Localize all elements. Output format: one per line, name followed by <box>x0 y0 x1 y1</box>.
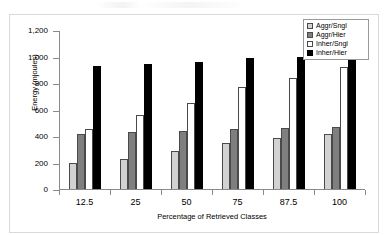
y-tick-label: 400 <box>4 133 48 141</box>
legend-swatch-icon <box>307 23 313 29</box>
legend-item: Inher/Sngl <box>307 39 366 48</box>
x-tick-label: 25 <box>110 197 161 207</box>
bar-inher-hier-12.5 <box>93 66 101 189</box>
chart-canvas: Energy (mjoules) 02004006008001,0001,200… <box>0 0 384 235</box>
bar-group <box>162 31 213 189</box>
x-tick-label: 50 <box>161 197 212 207</box>
x-tick-mark <box>161 190 162 195</box>
legend-label: Inher/Hier <box>316 48 347 57</box>
legend-label: Aggr/Sngl <box>316 21 347 30</box>
bar-inher-hier-100 <box>348 55 356 189</box>
legend-item: Inher/Hier <box>307 48 366 57</box>
bar-aggr-hier-12.5 <box>77 134 85 189</box>
x-tick-label: 100 <box>314 197 365 207</box>
figure: Energy (mjoules) 02004006008001,0001,200… <box>0 0 384 235</box>
bar-inher-hier-25 <box>144 64 152 189</box>
y-tick-label: 800 <box>4 80 48 88</box>
bar-inher-hier-75 <box>246 58 254 189</box>
x-axis-title: Percentage of Retrieved Classes <box>59 212 365 221</box>
bar-inher-sngl-12.5 <box>85 129 93 189</box>
y-tick-label: 600 <box>4 107 48 115</box>
bar-aggr-sngl-50 <box>171 151 179 189</box>
legend: Aggr/SnglAggr/HierInher/SnglInher/Hier <box>303 19 369 60</box>
bar-aggr-sngl-25 <box>120 159 128 189</box>
bar-aggr-sngl-75 <box>222 143 230 189</box>
x-tick-label: 12.5 <box>59 197 110 207</box>
bar-aggr-hier-25 <box>128 132 136 189</box>
bar-aggr-hier-87.5 <box>281 128 289 189</box>
bar-aggr-sngl-87.5 <box>273 138 281 189</box>
bar-group <box>212 31 263 189</box>
legend-swatch-icon <box>307 50 313 56</box>
bar-inher-sngl-50 <box>187 103 195 189</box>
bar-inher-sngl-87.5 <box>289 78 297 189</box>
bar-aggr-sngl-12.5 <box>69 163 77 189</box>
bar-aggr-hier-100 <box>332 127 340 189</box>
bar-inher-sngl-25 <box>136 115 144 189</box>
y-tick-label: 0 <box>4 186 48 194</box>
bar-group <box>60 31 111 189</box>
x-tick-mark <box>212 190 213 195</box>
legend-label: Aggr/Hier <box>316 30 346 39</box>
y-tick-label: 1,000 <box>4 54 48 62</box>
x-tick-mark <box>263 190 264 195</box>
x-tick-mark <box>314 190 315 195</box>
legend-item: Aggr/Sngl <box>307 21 366 30</box>
bar-inher-sngl-100 <box>340 67 348 189</box>
bar-group <box>111 31 162 189</box>
legend-swatch-icon <box>307 32 313 38</box>
legend-label: Inher/Sngl <box>316 39 348 48</box>
x-tick-label: 87.5 <box>263 197 314 207</box>
bar-inher-hier-50 <box>195 62 203 189</box>
x-tick-label: 75 <box>212 197 263 207</box>
bar-aggr-hier-50 <box>179 131 187 189</box>
legend-swatch-icon <box>307 41 313 47</box>
y-tick-label: 1,200 <box>4 27 48 35</box>
bar-aggr-hier-75 <box>230 129 238 189</box>
x-tick-mark <box>59 190 60 195</box>
bar-inher-sngl-75 <box>238 87 246 189</box>
x-tick-mark <box>110 190 111 195</box>
y-tick-label: 200 <box>4 160 48 168</box>
bar-inher-hier-87.5 <box>297 57 305 190</box>
legend-item: Aggr/Hier <box>307 30 366 39</box>
bar-aggr-sngl-100 <box>324 134 332 189</box>
x-tick-mark <box>365 190 366 195</box>
